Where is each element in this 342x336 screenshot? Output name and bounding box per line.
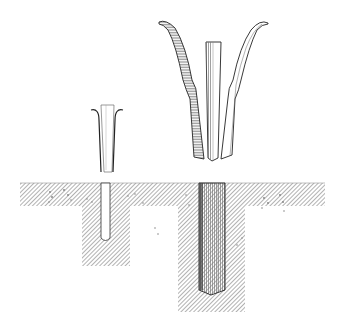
large-right-leaf — [221, 22, 268, 159]
ground-slab — [20, 183, 325, 312]
small-wedge-core — [101, 105, 114, 172]
large-left-leaf — [159, 21, 204, 159]
large-anchor — [159, 21, 268, 161]
diagram-canvas — [0, 0, 342, 336]
anchor-diagram — [0, 0, 342, 336]
small-right-leaf — [113, 110, 123, 172]
small-anchored-rod — [101, 183, 110, 241]
small-left-leaf — [91, 110, 101, 172]
large-anchored-rod — [199, 183, 225, 295]
small-anchor — [91, 105, 123, 172]
